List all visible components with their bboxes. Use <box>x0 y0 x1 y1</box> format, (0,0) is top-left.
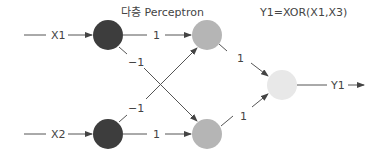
weight-x2-h1: −1 <box>128 102 144 115</box>
edge-h2-out: 1 <box>221 94 268 126</box>
output-label-y1: Y1 <box>330 79 345 92</box>
input-node-x2 <box>93 119 123 149</box>
input-node-x1 <box>93 20 123 50</box>
edge-x2-h2: 1 <box>123 128 191 141</box>
input-edge-x2: X2 <box>24 128 92 141</box>
edge-x1-h1: 1 <box>123 29 191 42</box>
weight-x2-h2: 1 <box>153 128 160 141</box>
edge-h1-out: 1 <box>219 44 268 76</box>
xor-network-diagram: 다층 Perceptron Y1=XOR(X1,X3) X1 X2 1 1 −1… <box>0 0 387 161</box>
weight-x1-h2: −1 <box>128 56 144 69</box>
weight-h1-out: 1 <box>237 52 244 65</box>
weight-h2-out: 1 <box>240 110 247 123</box>
weight-x1-h1: 1 <box>153 29 160 42</box>
output-edge-y1: Y1 <box>297 79 364 92</box>
input-label-x2: X2 <box>51 128 66 141</box>
diagram-title-multilayer: 다층 Perceptron <box>121 6 204 19</box>
output-node-y1 <box>267 70 297 100</box>
diagram-title-xor: Y1=XOR(X1,X3) <box>259 6 347 19</box>
input-edge-x1: X1 <box>24 29 92 42</box>
hidden-node-1 <box>192 20 222 50</box>
hidden-node-2 <box>192 119 222 149</box>
input-label-x1: X1 <box>51 29 66 42</box>
